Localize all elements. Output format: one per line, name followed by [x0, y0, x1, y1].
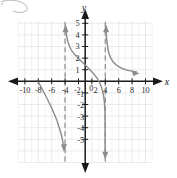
y-tick-4: 4 — [75, 31, 79, 40]
x-tick--4: -4 — [62, 86, 69, 95]
y-tick--4: -4 — [77, 124, 84, 133]
axes — [8, 9, 163, 173]
x-tick-8: 8 — [130, 86, 134, 95]
x-axis-arrow-right — [153, 77, 163, 85]
y-tick--1: -1 — [77, 90, 84, 99]
y-tick--3: -3 — [77, 113, 84, 122]
y-axis-label: y — [81, 2, 87, 13]
y-tick--5: -5 — [77, 136, 84, 145]
y-tick--2: -2 — [77, 101, 84, 110]
x-tick--8: -8 — [35, 86, 42, 95]
x-tick-6: 6 — [117, 86, 121, 95]
x-tick-10: 10 — [141, 86, 149, 95]
y-axis-arrow-down — [81, 163, 89, 173]
y-tick-2: 2 — [75, 54, 79, 63]
scan-artifact — [1, 0, 27, 12]
x-tick--6: -6 — [48, 86, 55, 95]
graph-figure: x y -10 -8 -6 -4 -2 0 2 4 6 8 10 1 2 3 4… — [0, 0, 177, 178]
x-tick--10: -10 — [19, 86, 30, 95]
y-tick-3: 3 — [75, 42, 79, 51]
arrow-center-down — [102, 152, 108, 160]
x-axis-arrow-left — [8, 77, 18, 85]
arrow-right-up — [103, 25, 109, 33]
arrow-center-up — [63, 25, 69, 33]
x-tick-4: 4 — [103, 86, 107, 95]
x-axis-label: x — [164, 76, 170, 87]
y-tick-5: 5 — [75, 19, 79, 28]
x-tick-2: 2 — [93, 86, 97, 95]
y-tick-1: 1 — [75, 66, 79, 75]
coordinate-plane-svg: x y -10 -8 -6 -4 -2 0 2 4 6 8 10 1 2 3 4… — [0, 0, 177, 178]
